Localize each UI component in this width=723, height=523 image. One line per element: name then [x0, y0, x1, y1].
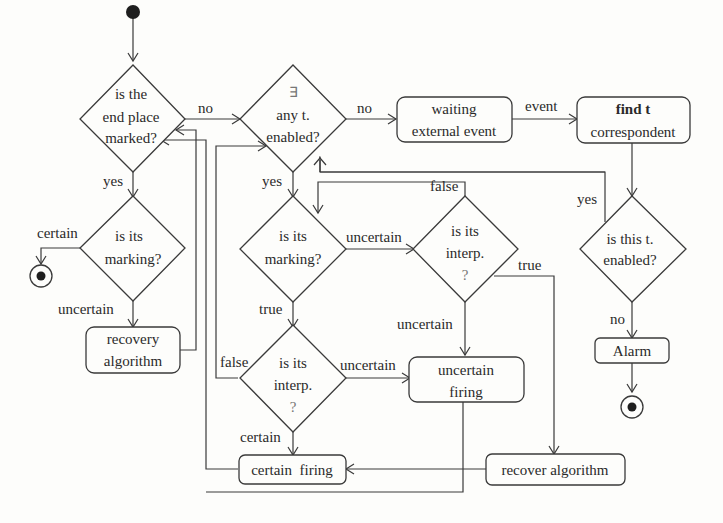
flowchart-canvas: is the end place marked? ∃ any t. enable… — [0, 0, 723, 523]
node-text: is the — [115, 86, 147, 102]
label-uncertain: uncertain — [340, 357, 396, 373]
label-yes: yes — [103, 173, 123, 189]
node-text: enabled? — [603, 252, 657, 268]
start-node — [126, 5, 140, 19]
node-text: correspondent — [591, 124, 677, 140]
node-text: any t. — [276, 107, 309, 123]
decision-this-t-enabled: is this t. enabled? — [580, 196, 686, 302]
node-text: find t — [616, 101, 651, 117]
decision-marking-left: is its marking? — [80, 196, 185, 301]
node-text: certain firing — [251, 462, 333, 478]
final-node-right — [621, 396, 643, 418]
action-certain-firing: certain firing — [239, 455, 346, 484]
node-text: is this t. — [606, 231, 653, 247]
node-text: end place — [102, 109, 159, 125]
node-text: marked? — [105, 130, 157, 146]
node-text: is its — [451, 223, 479, 239]
edge-recovery-loop — [176, 130, 196, 350]
decision-any-t-enabled: ∃ any t. enabled? — [240, 65, 346, 172]
node-text: external event — [412, 123, 497, 139]
label-uncertain: uncertain — [58, 301, 114, 317]
node-text: is its — [279, 228, 307, 244]
label-no: no — [610, 311, 625, 327]
label-certain: certain — [37, 225, 78, 241]
node-text: recover algorithm — [501, 462, 608, 478]
decision-interp-lower: is its interp. ? — [240, 325, 346, 432]
exists-symbol: ∃ — [289, 85, 298, 100]
node-text: ? — [290, 399, 297, 415]
label-true: true — [518, 257, 542, 273]
label-no: no — [198, 100, 213, 116]
action-find-t-correspondent: find t correspondent — [577, 97, 690, 143]
label-uncertain: uncertain — [346, 229, 402, 245]
label-uncertain: uncertain — [397, 316, 453, 332]
action-alarm: Alarm — [595, 338, 669, 363]
node-text: interp. — [446, 245, 485, 261]
node-text: recovery — [107, 331, 160, 347]
node-text: is its — [115, 228, 143, 244]
node-text: is its — [279, 355, 307, 371]
decision-end-place-marked: is the end place marked? — [80, 65, 185, 172]
node-text: enabled? — [266, 129, 320, 145]
label-yes: yes — [262, 173, 282, 189]
label-event: event — [525, 98, 558, 114]
action-recover-algorithm: recover algorithm — [486, 454, 625, 485]
node-text: firing — [449, 384, 483, 400]
action-waiting-external-event: waiting external event — [397, 97, 512, 142]
node-text: marking? — [105, 251, 162, 267]
node-text: uncertain — [438, 362, 494, 378]
label-no: no — [357, 100, 372, 116]
node-text: waiting — [432, 101, 477, 117]
action-uncertain-firing: uncertain firing — [409, 357, 524, 402]
edge-mark1-certain — [41, 248, 80, 263]
node-text: algorithm — [104, 353, 163, 369]
node-text: Alarm — [613, 343, 652, 359]
node-text: marking? — [265, 251, 322, 267]
node-text: interp. — [274, 377, 313, 393]
label-yes: yes — [577, 191, 597, 207]
label-true: true — [259, 301, 283, 317]
edge-certain-firing-loop — [161, 140, 238, 469]
label-false: false — [430, 178, 459, 194]
decision-marking-center: is its marking? — [240, 196, 346, 302]
label-false: false — [220, 354, 249, 370]
action-recovery-algorithm: recovery algorithm — [86, 327, 180, 373]
node-text: ? — [462, 267, 469, 283]
decision-interp-upper: is its interp. ? — [413, 196, 518, 302]
final-node-left — [30, 265, 52, 287]
label-certain: certain — [240, 429, 281, 445]
